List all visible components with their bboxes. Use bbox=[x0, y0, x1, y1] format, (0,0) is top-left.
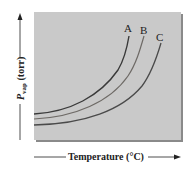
vapor-pressure-chart: A B C Pvap (torr) Temperature (°C) bbox=[0, 0, 191, 171]
curve-c-label: C bbox=[156, 31, 163, 43]
y-axis-arrowhead-icon bbox=[18, 13, 23, 20]
y-axis-label: Pvap (torr) bbox=[15, 57, 28, 100]
curve-a-label: A bbox=[124, 22, 132, 34]
y-axis-label-sub: vap bbox=[20, 83, 28, 94]
x-axis-label: Temperature (°C) bbox=[68, 151, 144, 163]
x-axis-arrowhead-icon bbox=[174, 155, 181, 160]
curve-b-label: B bbox=[140, 24, 147, 36]
y-axis-label-unit: (torr) bbox=[15, 57, 27, 83]
